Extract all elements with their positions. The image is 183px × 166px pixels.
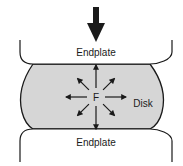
- load-arrow-icon: [87, 7, 105, 42]
- disk-compression-diagram: Endplate Endplate Disk F: [0, 0, 183, 166]
- disk-label: Disk: [133, 98, 153, 109]
- force-label: F: [93, 92, 99, 103]
- top-endplate-label: Endplate: [76, 47, 116, 58]
- bottom-endplate-label: Endplate: [76, 137, 116, 148]
